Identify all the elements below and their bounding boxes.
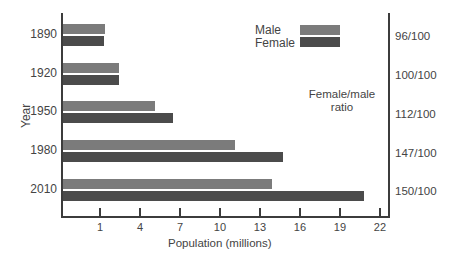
bar-male-1980 — [63, 140, 235, 150]
x-tick-label-10: 10 — [214, 221, 226, 233]
ratio-label-1890: 96/100 — [395, 30, 430, 42]
ratio-title-line2: ratio — [297, 101, 387, 114]
x-tick-7 — [179, 208, 181, 216]
bar-female-1920 — [63, 75, 119, 85]
legend-label-male: Male — [255, 23, 281, 37]
year-label-2010: 2010 — [17, 182, 57, 196]
legend-swatch-female — [300, 37, 340, 47]
ratio-label-1980: 147/100 — [395, 147, 437, 159]
bar-female-2010 — [63, 191, 364, 201]
x-tick-label-19: 19 — [334, 221, 346, 233]
x-tick-1 — [99, 208, 101, 216]
x-tick-10 — [219, 208, 221, 216]
x-tick-19 — [339, 208, 341, 216]
bar-male-2010 — [63, 179, 272, 189]
x-axis-label: Population (millions) — [168, 237, 272, 249]
bar-female-1980 — [63, 152, 283, 162]
ratio-label-1920: 100/100 — [395, 69, 437, 81]
x-tick-label-1: 1 — [97, 221, 103, 233]
ratio-label-1950: 112/100 — [395, 108, 436, 120]
bar-female-1950 — [63, 113, 173, 123]
ratio-title-line1: Female/male — [297, 88, 387, 101]
x-tick-label-4: 4 — [137, 221, 143, 233]
x-tick-22 — [379, 208, 381, 216]
legend-label-female: Female — [255, 36, 295, 50]
x-tick-16 — [299, 208, 301, 216]
bar-female-1890 — [63, 36, 104, 46]
x-tick-13 — [259, 208, 261, 216]
legend-swatch-male — [300, 25, 340, 35]
x-tick-label-13: 13 — [254, 221, 266, 233]
x-tick-label-22: 22 — [374, 221, 386, 233]
ratio-label-2010: 150/100 — [395, 185, 437, 197]
year-label-1920: 1920 — [17, 66, 57, 80]
x-tick-4 — [139, 208, 141, 216]
year-label-1890: 1890 — [17, 27, 57, 41]
right-axis — [388, 13, 390, 218]
x-tick-label-7: 7 — [177, 221, 183, 233]
ratio-title: Female/male ratio — [297, 88, 387, 114]
x-tick-label-16: 16 — [294, 221, 306, 233]
bar-male-1890 — [63, 24, 105, 34]
bar-male-1920 — [63, 63, 119, 73]
year-label-1950: 1950 — [17, 104, 57, 118]
bottom-axis — [61, 216, 390, 218]
bar-male-1950 — [63, 101, 155, 111]
year-label-1980: 1980 — [17, 143, 57, 157]
